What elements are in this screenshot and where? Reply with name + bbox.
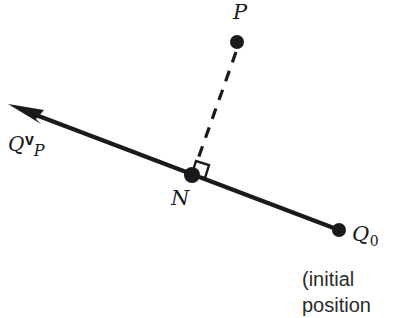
velocity-label-base: Q: [8, 132, 24, 156]
point-label-q0: Q0: [352, 224, 379, 248]
caption-line-2: position: [302, 292, 371, 318]
velocity-label-superscript: v: [25, 131, 34, 148]
velocity-line-group: [8, 104, 339, 230]
velocity-vector-label: QvP: [8, 132, 45, 159]
velocity-arrowhead: [8, 104, 44, 124]
point-label-q0-base: Q: [352, 222, 369, 246]
point-dot-p: [230, 35, 244, 49]
perpendicular-dashed-line: [193, 52, 236, 173]
point-label-p: P: [233, 2, 247, 23]
point-label-q0-subscript: 0: [370, 233, 379, 249]
figure-caption: (initial position: [302, 266, 371, 318]
point-dot-n: [184, 167, 200, 183]
point-dot-q0: [332, 223, 346, 237]
velocity-diagram: P N Q0 QvP (initial position: [0, 0, 393, 318]
point-label-n: N: [171, 188, 189, 209]
velocity-label-subscript: P: [34, 141, 45, 160]
caption-line-1: (initial: [302, 266, 371, 292]
